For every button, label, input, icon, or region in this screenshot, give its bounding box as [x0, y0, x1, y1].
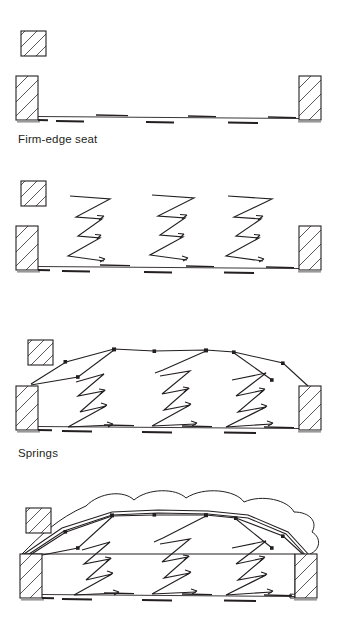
panel-springs: Springs: [0, 170, 340, 300]
first-stuffing: [22, 491, 319, 598]
webbing: [38, 115, 299, 123]
key-symbol-hatched-section: [8, 170, 56, 216]
coil-spring: [68, 374, 113, 427]
timber-rail-right: [281, 544, 333, 620]
key-symbol-hatched-section: [8, 18, 56, 66]
coil-spring: [226, 373, 273, 427]
panel-hessian-covering-and-first-stuffing: Hessian covering and first stuffing: [0, 470, 340, 636]
timber-rail-left: [2, 66, 54, 142]
timber-rail-right: [285, 216, 337, 292]
timber-rail-right: [285, 66, 337, 142]
lashing-cord: [31, 349, 308, 386]
timber-rail-left: [2, 376, 54, 452]
panel-firm-edge-seat: Firm-edge seat: [0, 0, 340, 160]
timber-rail-left: [2, 216, 54, 292]
figure-sheet: Firm-edge seat: [0, 0, 340, 636]
coil-spring: [150, 195, 194, 261]
coil-spring: [226, 196, 272, 262]
panel-lashing: Lashing: [0, 330, 340, 460]
webbing: [38, 265, 299, 273]
timber-rail-left: [6, 544, 58, 620]
caption-firm-edge-seat: Firm-edge seat: [18, 133, 97, 145]
timber-rail-right: [285, 376, 337, 452]
coil-spring: [68, 196, 110, 262]
coil-spring: [152, 371, 197, 426]
